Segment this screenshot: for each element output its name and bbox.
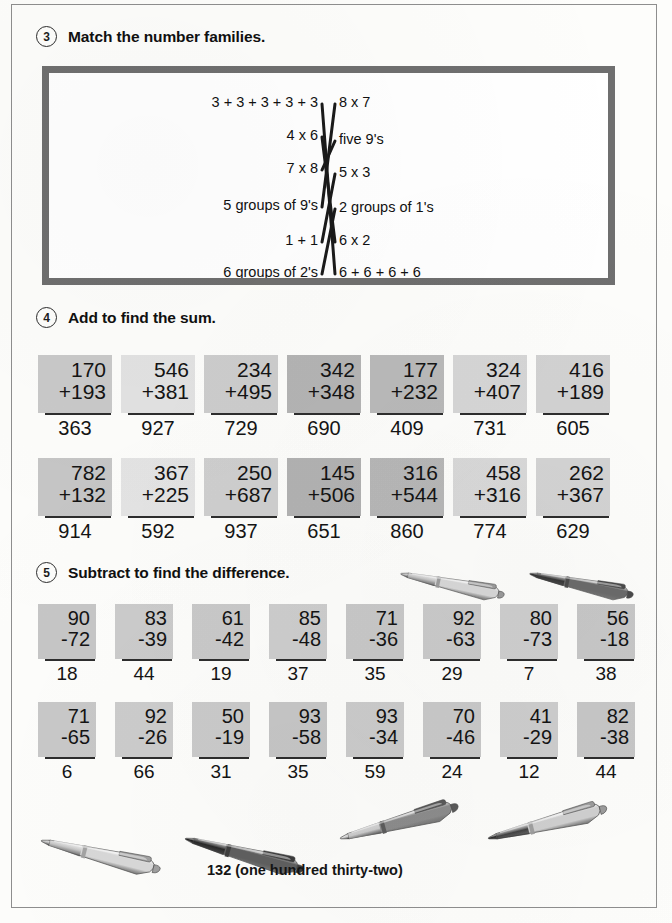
problem-answer[interactable]: 38 <box>595 664 616 683</box>
operation-rule-line <box>128 413 194 415</box>
matching-right-item[interactable]: 6 x 2 <box>339 233 370 248</box>
problem-cell[interactable]: 50-1931 <box>192 702 250 781</box>
problem-answer[interactable]: 19 <box>210 664 231 683</box>
problem-cell[interactable]: 170+193363 <box>38 355 112 438</box>
section-number-badge-3: 3 <box>36 26 57 47</box>
matching-right-item[interactable]: 6 + 6 + 6 + 6 <box>339 265 421 278</box>
problem-cell[interactable]: 316+544860 <box>370 458 444 541</box>
problem-cell[interactable]: 367+225592 <box>121 458 195 541</box>
operand-top: 250 <box>237 462 272 484</box>
problem-answer[interactable]: 651 <box>307 521 340 541</box>
matching-left-item[interactable]: 6 groups of 2's <box>223 265 318 278</box>
problem-operand-box: 316+544 <box>370 458 444 516</box>
problem-cell[interactable]: 90-7218 <box>38 604 96 683</box>
problem-cell[interactable]: 416+189605 <box>536 355 610 438</box>
problem-answer[interactable]: 774 <box>473 521 506 541</box>
matching-right-item[interactable]: 8 x 7 <box>339 95 370 110</box>
problem-cell[interactable]: 80-737 <box>500 604 558 683</box>
problem-cell[interactable]: 41-2912 <box>500 702 558 781</box>
problem-cell[interactable]: 92-6329 <box>423 604 481 683</box>
problem-cell[interactable]: 177+232409 <box>370 355 444 438</box>
problem-answer[interactable]: 629 <box>556 521 589 541</box>
problem-cell[interactable]: 71-656 <box>38 702 96 781</box>
problem-answer[interactable]: 35 <box>364 664 385 683</box>
problem-answer[interactable]: 729 <box>224 418 257 438</box>
matching-left-item[interactable]: 3 + 3 + 3 + 3 + 3 <box>212 95 318 110</box>
matching-left-item[interactable]: 7 x 8 <box>287 161 318 176</box>
problem-cell[interactable]: 324+407731 <box>453 355 527 438</box>
problem-cell[interactable]: 93-3459 <box>346 702 404 781</box>
matching-right-item[interactable]: 2 groups of 1's <box>339 200 434 215</box>
operand-top: 546 <box>154 359 189 381</box>
problem-operand-box: 367+225 <box>121 458 195 516</box>
operation-rule-line <box>584 757 634 759</box>
problem-answer[interactable]: 860 <box>390 521 423 541</box>
operation-rule-line <box>543 516 609 518</box>
problem-cell[interactable]: 61-4219 <box>192 604 250 683</box>
problem-cell[interactable]: 85-4837 <box>269 604 327 683</box>
operation-rule-line <box>199 757 249 759</box>
operand-bottom: +407 <box>474 381 521 403</box>
matching-left-item[interactable]: 4 x 6 <box>287 128 318 143</box>
problem-answer[interactable]: 18 <box>56 664 77 683</box>
operand-top: 80 <box>530 608 552 629</box>
problem-answer[interactable]: 24 <box>441 762 462 781</box>
problem-answer[interactable]: 592 <box>141 521 174 541</box>
problem-answer[interactable]: 409 <box>390 418 423 438</box>
problem-answer[interactable]: 59 <box>364 762 385 781</box>
matching-right-item[interactable]: five 9's <box>339 132 384 147</box>
operation-rule-line <box>45 659 95 661</box>
problem-cell[interactable]: 71-3635 <box>346 604 404 683</box>
problem-operand-box: 56-18 <box>577 604 635 659</box>
problem-answer[interactable]: 363 <box>58 418 91 438</box>
section-number-badge-5: 5 <box>36 562 57 583</box>
problem-operand-box: 83-39 <box>115 604 173 659</box>
matching-right-item[interactable]: 5 x 3 <box>339 165 370 180</box>
operation-rule-line <box>430 659 480 661</box>
problem-answer[interactable]: 690 <box>307 418 340 438</box>
operand-top: 41 <box>530 706 552 727</box>
problem-cell[interactable]: 546+381927 <box>121 355 195 438</box>
problem-cell[interactable]: 82-3844 <box>577 702 635 781</box>
problem-answer[interactable]: 29 <box>441 664 462 683</box>
problem-cell[interactable]: 83-3944 <box>115 604 173 683</box>
problem-cell[interactable]: 342+348690 <box>287 355 361 438</box>
operand-bottom: +189 <box>557 381 604 403</box>
problem-answer[interactable]: 605 <box>556 418 589 438</box>
problem-operand-box: 82-38 <box>577 702 635 757</box>
problem-answer[interactable]: 731 <box>473 418 506 438</box>
problem-operand-box: 234+495 <box>204 355 278 413</box>
problem-operand-box: 50-19 <box>192 702 250 757</box>
problem-answer[interactable]: 12 <box>518 762 539 781</box>
problem-answer[interactable]: 937 <box>224 521 257 541</box>
problem-answer[interactable]: 7 <box>524 664 535 683</box>
problem-cell[interactable]: 782+132914 <box>38 458 112 541</box>
problem-cell[interactable]: 93-5835 <box>269 702 327 781</box>
problem-answer[interactable]: 927 <box>141 418 174 438</box>
problem-answer[interactable]: 37 <box>287 664 308 683</box>
problem-answer[interactable]: 66 <box>133 762 154 781</box>
operand-top: 458 <box>486 462 521 484</box>
problem-cell[interactable]: 234+495729 <box>204 355 278 438</box>
problem-cell[interactable]: 92-2666 <box>115 702 173 781</box>
problem-answer[interactable]: 44 <box>595 762 616 781</box>
problem-answer[interactable]: 31 <box>210 762 231 781</box>
operand-bottom: -72 <box>61 629 90 650</box>
problem-answer[interactable]: 35 <box>287 762 308 781</box>
operand-bottom: -65 <box>61 727 90 748</box>
problem-cell[interactable]: 145+506651 <box>287 458 361 541</box>
operand-bottom: -39 <box>138 629 167 650</box>
problem-cell[interactable]: 70-4624 <box>423 702 481 781</box>
problem-cell[interactable]: 56-1838 <box>577 604 635 683</box>
matching-left-item[interactable]: 5 groups of 9's <box>223 198 318 213</box>
problem-cell[interactable]: 250+687937 <box>204 458 278 541</box>
problem-cell[interactable]: 458+316774 <box>453 458 527 541</box>
problem-operand-box: 41-29 <box>500 702 558 757</box>
problem-cell[interactable]: 262+367629 <box>536 458 610 541</box>
operand-bottom: -19 <box>215 727 244 748</box>
problem-answer[interactable]: 44 <box>133 664 154 683</box>
operand-top: 56 <box>607 608 629 629</box>
matching-left-item[interactable]: 1 + 1 <box>285 233 318 248</box>
problem-answer[interactable]: 914 <box>58 521 91 541</box>
problem-answer[interactable]: 6 <box>62 762 73 781</box>
